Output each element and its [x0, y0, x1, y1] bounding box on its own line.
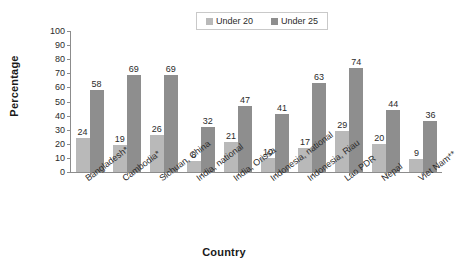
bar-under-25[interactable]: 74	[349, 68, 363, 172]
legend-entry-under-25: Under 25	[271, 17, 318, 26]
bar-value-label: 20	[374, 134, 384, 143]
bar-value-label: 9	[414, 149, 419, 158]
bar-pair: 2044	[368, 31, 405, 172]
bar-group: 936	[405, 31, 442, 172]
bar-value-label: 36	[425, 111, 435, 120]
bar-under-25[interactable]: 69	[164, 75, 178, 172]
bar-value-label: 44	[388, 100, 398, 109]
bar-under-25[interactable]: 63	[312, 83, 326, 172]
x-axis-category-labels: Bangladesh*Cambodia*Sichuan, ChinaIndia,…	[70, 176, 441, 238]
bar-value-label: 29	[337, 121, 347, 130]
bar-value-label: 74	[351, 58, 361, 67]
bar-value-label: 26	[152, 125, 162, 134]
bar-value-label: 69	[166, 65, 176, 74]
bar-value-label: 32	[203, 117, 213, 126]
legend-swatch-under-25	[271, 18, 278, 25]
legend-label-under-25: Under 25	[281, 17, 318, 26]
bar-pair: 936	[405, 31, 442, 172]
bar-group: 2458	[71, 31, 108, 172]
bar-value-label: 58	[92, 80, 102, 89]
bar-under-25[interactable]: 58	[90, 90, 104, 172]
bar-value-label: 63	[314, 73, 324, 82]
legend-entry-under-20: Under 20	[206, 17, 253, 26]
y-axis-tick-mark	[67, 172, 71, 173]
bar-value-label: 47	[240, 96, 250, 105]
bar-value-label: 24	[78, 128, 88, 137]
bar-value-label: 69	[129, 65, 139, 74]
bar-value-label: 19	[115, 135, 125, 144]
x-axis-title: Country	[0, 246, 448, 258]
y-axis-title: Percentage	[2, 0, 26, 172]
bar-under-25[interactable]: 69	[127, 75, 141, 172]
legend-swatch-under-20	[206, 18, 213, 25]
legend-label-under-20: Under 20	[216, 17, 253, 26]
bar-under-20[interactable]: 24	[76, 138, 90, 172]
bar-value-label: 41	[277, 104, 287, 113]
bar-pair: 2458	[71, 31, 108, 172]
y-axis-title-text: Percentage	[8, 55, 20, 116]
chart-legend: Under 20 Under 25	[196, 12, 328, 30]
bar-group: 2044	[368, 31, 405, 172]
bar-value-label: 21	[226, 132, 236, 141]
